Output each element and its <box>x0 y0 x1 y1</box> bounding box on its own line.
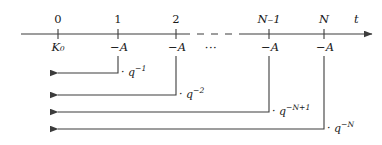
discount-factor-base-q-n: · q <box>327 122 341 135</box>
discount-factor-label-q-1: · q−1 <box>121 66 146 79</box>
tick-label-0: 0 <box>54 12 61 26</box>
discount-factor-base-q-n-plus-1: · q <box>272 105 286 118</box>
discount-factor-exponent-q-n: −N <box>341 120 354 129</box>
discount-path-q-1 <box>58 56 118 73</box>
discount-factor-base-q-2: · q <box>179 88 193 101</box>
axis-variable-label: t <box>354 12 359 26</box>
tick-label-n: N <box>319 12 329 26</box>
ellipsis-glyph: ··· <box>205 41 217 55</box>
amount-label-period-2: −A <box>168 40 186 54</box>
discount-factor-exponent-q-1: −1 <box>135 64 146 73</box>
discount-factor-label-q-2: · q−2 <box>179 88 204 101</box>
amount-label-k0-text: K₀ <box>51 40 64 54</box>
discount-factor-label-q-n: · q−N <box>327 122 354 135</box>
discount-factor-base-q-1: · q <box>121 66 135 79</box>
amount-label-period-n: −A <box>316 40 334 54</box>
tick-label-n-minus-1: N–1 <box>257 12 280 26</box>
amount-label-period-1: −A <box>110 40 128 54</box>
tick-label-1: 1 <box>114 12 121 26</box>
timeline-diagram: 0 1 2 N–1 N t K₀ −A −A −A −A ··· · q−1 ·… <box>0 0 382 145</box>
discount-factor-exponent-q-n-plus-1: −N+1 <box>286 103 310 112</box>
discount-factor-label-q-n-plus-1: · q−N+1 <box>272 105 310 118</box>
amount-label-period-n-minus-1: −A <box>261 40 279 54</box>
tick-label-2: 2 <box>172 12 179 26</box>
discount-path-q-2 <box>58 56 176 95</box>
discount-path-q-n-plus-1 <box>58 56 269 112</box>
amount-label-k0: K₀ <box>51 40 64 54</box>
discount-factor-exponent-q-2: −2 <box>193 86 204 95</box>
